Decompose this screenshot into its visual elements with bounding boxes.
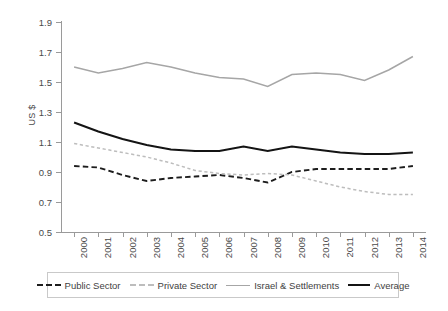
series-layer (0, 0, 448, 311)
legend-label: Private Sector (158, 280, 218, 291)
legend-swatch-public-sector (37, 284, 61, 286)
chart-legend: Public SectorPrivate SectorIsrael & Sett… (47, 272, 399, 298)
legend-label: Israel & Settlements (254, 280, 339, 291)
legend-swatch-private-sector (130, 284, 154, 286)
legend-swatch-israel-settlements (226, 285, 250, 286)
legend-item-public-sector[interactable]: Public Sector (37, 280, 121, 291)
legend-label: Average (374, 280, 409, 291)
series-line-public-sector (74, 166, 413, 183)
legend-swatch-average (348, 284, 370, 286)
legend-label: Public Sector (65, 280, 121, 291)
series-line-private-sector (74, 144, 413, 195)
legend-item-private-sector[interactable]: Private Sector (130, 280, 218, 291)
series-line-average (74, 123, 413, 155)
line-chart: US $ 1.91.71.51.31.10.90.70.5 2000200120… (0, 0, 448, 311)
legend-item-israel-settlements[interactable]: Israel & Settlements (226, 280, 339, 291)
series-line-israel-settlements (74, 57, 413, 87)
legend-item-average[interactable]: Average (348, 280, 409, 291)
